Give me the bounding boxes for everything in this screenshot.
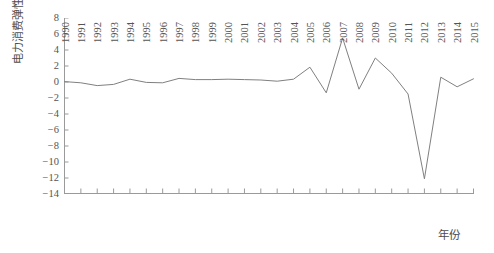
y-tick-label: 2 <box>54 61 59 71</box>
x-tick-label: 2015 <box>469 22 480 43</box>
x-tick-label: 1994 <box>125 22 136 43</box>
y-tick-label: 8 <box>54 13 59 23</box>
x-tick-label: 2002 <box>256 22 267 43</box>
x-tick-marks <box>65 189 474 194</box>
y-tick-label: 0 <box>54 77 59 87</box>
x-tick-label: 2010 <box>387 22 398 43</box>
data-series-line <box>65 38 474 179</box>
x-tick-label: 2006 <box>321 22 332 43</box>
x-tick-label: 1999 <box>207 22 218 43</box>
x-tick-label: 2012 <box>419 22 430 43</box>
x-tick-label: 2000 <box>223 22 234 43</box>
y-tick-label: 6 <box>54 29 59 39</box>
chart-figure: 电力消费弹性系数 86420−2−4−6−8−10−12−14 19901991… <box>0 0 494 253</box>
y-tick-label: −2 <box>48 93 59 103</box>
x-tick-label: 2007 <box>338 22 349 43</box>
y-tick-label: −4 <box>48 109 59 119</box>
y-tick-label: −8 <box>48 141 59 151</box>
x-tick-label: 1997 <box>174 22 185 43</box>
x-tick-label: 2004 <box>289 22 300 43</box>
y-tick-marks <box>65 18 69 194</box>
x-tick-label: 1996 <box>158 22 169 43</box>
x-tick-label: 2011 <box>403 22 414 43</box>
line-chart-svg <box>64 18 474 194</box>
x-tick-label: 1993 <box>109 22 120 43</box>
x-tick-label: 1991 <box>76 22 87 43</box>
x-tick-label: 2001 <box>239 22 250 43</box>
y-tick-label: −14 <box>43 189 59 199</box>
x-tick-label: 2009 <box>370 22 381 43</box>
x-tick-label: 2013 <box>436 22 447 43</box>
x-axis-title: 年份 <box>438 226 460 242</box>
y-tick-label: −6 <box>48 125 59 135</box>
x-tick-label: 2008 <box>354 22 365 43</box>
plot-area: 86420−2−4−6−8−10−12−14 19901991199219931… <box>64 18 474 194</box>
x-tick-label: 1992 <box>92 22 103 43</box>
x-tick-label: 1995 <box>141 22 152 43</box>
y-tick-label: −12 <box>43 173 59 183</box>
y-axis-title: 电力消费弹性系数 <box>8 0 30 75</box>
x-tick-label: 2014 <box>452 22 463 43</box>
x-tick-label: 1998 <box>190 22 201 43</box>
x-tick-label: 2005 <box>305 22 316 43</box>
x-tick-label: 1990 <box>60 22 71 43</box>
x-tick-label: 2003 <box>272 22 283 43</box>
y-tick-label: 4 <box>54 45 59 55</box>
axis-lines <box>65 18 475 194</box>
y-tick-label: −10 <box>43 157 59 167</box>
